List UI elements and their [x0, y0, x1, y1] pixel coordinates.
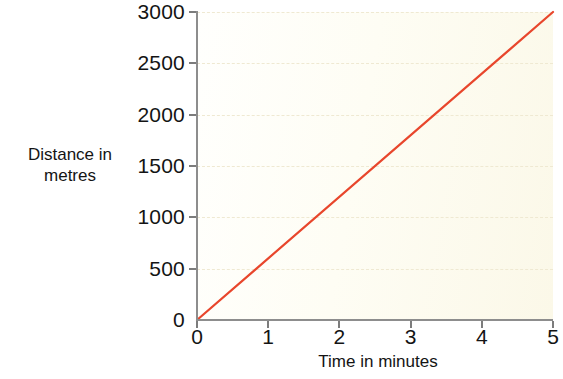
y-tick-label-1000: 1000 — [137, 206, 185, 227]
y-tick-2500 — [189, 62, 196, 64]
y-axis-line — [196, 11, 198, 321]
y-tick-3000 — [189, 11, 196, 13]
data-line — [197, 12, 553, 320]
y-axis-title: Distance in metres — [8, 144, 132, 186]
y-tick-label-2500: 2500 — [137, 52, 185, 73]
x-tick-label-2: 2 — [324, 326, 354, 347]
y-tick-label-3000: 3000 — [137, 1, 185, 22]
y-tick-2000 — [189, 114, 196, 116]
x-tick-label-5: 5 — [538, 326, 563, 347]
x-axis-title: Time in minutes — [213, 352, 543, 372]
x-tick-label-3: 3 — [396, 326, 426, 347]
y-tick-500 — [189, 268, 196, 270]
y-tick-label-1500: 1500 — [137, 155, 185, 176]
x-axis-line — [196, 319, 553, 321]
y-axis-title-line1: Distance in — [28, 145, 112, 164]
y-tick-label-2000: 2000 — [137, 104, 185, 125]
y-axis-title-line2: metres — [44, 166, 96, 185]
series-distance-line — [197, 12, 553, 320]
y-tick-1000 — [189, 216, 196, 218]
y-tick-1500 — [189, 165, 196, 167]
x-tick-label-1: 1 — [253, 326, 283, 347]
x-tick-label-4: 4 — [467, 326, 497, 347]
y-tick-label-500: 500 — [149, 258, 185, 279]
x-tick-label-0: 0 — [182, 326, 212, 347]
